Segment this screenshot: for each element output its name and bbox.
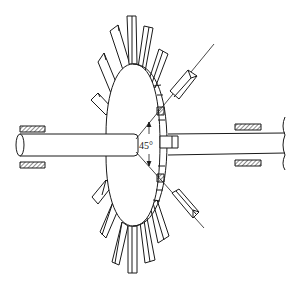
- angle-label: 45°: [139, 140, 153, 151]
- left-shaft: [16, 134, 138, 156]
- bearing-right-bottom: [235, 160, 261, 166]
- detached-blade-upper: [170, 70, 197, 99]
- hub-key: [160, 136, 178, 148]
- bearing-left-bottom: [20, 162, 45, 168]
- bearing-left-top: [20, 126, 45, 132]
- bladed-disc-diagram: 45°: [0, 0, 303, 286]
- bearing-right-top: [235, 124, 261, 130]
- detached-blade-lower: [172, 189, 199, 218]
- right-shaft: [168, 117, 285, 170]
